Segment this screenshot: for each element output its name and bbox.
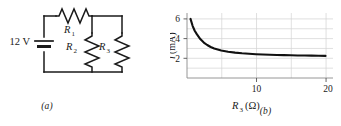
resistor-r2-label-base: R bbox=[65, 41, 73, 52]
battery-voltage-label: 12 V bbox=[9, 36, 30, 47]
caption-panel-b: (b) bbox=[180, 106, 341, 116]
chart-x-ticks bbox=[257, 78, 327, 82]
caption-panel-a: (a) bbox=[0, 101, 132, 111]
chart-xtick-label-10: 10 bbox=[252, 84, 262, 94]
resistor-r2-label-sub: 2 bbox=[74, 47, 78, 55]
resistor-r3-label-base: R bbox=[98, 41, 106, 52]
panel-b-plot: 2 4 6 10 20 i (mA) R 3 (Ω) (b) bbox=[170, 0, 341, 126]
figure-container: 12 V R 1 R 2 R 3 (a) bbox=[0, 0, 341, 126]
chart-gridlines-horizontal bbox=[187, 19, 333, 68]
chart-data-curve bbox=[191, 19, 326, 56]
chart-y-ticks bbox=[184, 19, 188, 58]
resistor-r3-label: R 3 bbox=[98, 41, 111, 55]
resistor-r2-symbol bbox=[85, 33, 99, 72]
resistor-r1-symbol bbox=[56, 9, 92, 23]
panel-a-circuit-diagram: 12 V R 1 R 2 R 3 (a) bbox=[0, 0, 170, 126]
chart-y-axis-title-unit: (mA) bbox=[170, 32, 178, 54]
resistor-r1-label: R 1 bbox=[63, 24, 76, 38]
resistor-r1-label-sub: 1 bbox=[72, 30, 76, 38]
resistor-r3-symbol bbox=[115, 33, 129, 72]
resistor-r3-label-sub: 3 bbox=[107, 47, 111, 55]
chart-xtick-label-20: 20 bbox=[323, 84, 333, 94]
resistor-r2-label: R 2 bbox=[65, 41, 78, 55]
chart-ytick-label-6: 6 bbox=[175, 14, 180, 24]
chart-y-axis-title-symbol: i bbox=[170, 56, 177, 59]
resistor-r1-label-base: R bbox=[63, 24, 71, 35]
